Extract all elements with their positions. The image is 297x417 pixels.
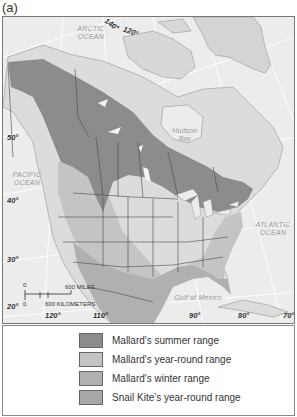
latitude-label: 30° (7, 255, 18, 264)
atlantic-ocean-label: ATLANTICOCEAN (253, 221, 293, 237)
winter-range-swatch (79, 371, 103, 386)
scale-miles-label: 600 MILES (65, 284, 95, 290)
arctic-ocean-label: ARCTICOCEAN (71, 25, 111, 41)
year-round-range-swatch (79, 352, 103, 367)
summer-range-swatch (79, 333, 103, 348)
longitude-label: 90° (189, 311, 200, 320)
scale-km-label: 600 KILOMETERS (45, 301, 95, 307)
snail-kite-range-swatch (79, 390, 103, 405)
pacific-ocean-label: PACIFICOCEAN (7, 171, 47, 187)
legend-label: Snail Kite's year-round range (112, 392, 241, 403)
legend-label: Mallard's winter range (112, 373, 210, 384)
legend-item-snail-kite: Snail Kite's year-round range (79, 388, 241, 406)
latitude-label: 20° (7, 302, 18, 311)
longitude-label: 80° (238, 311, 249, 320)
legend-label: Mallard's summer range (112, 335, 219, 346)
legend-label: Mallard's year-round range (112, 354, 231, 365)
longitude-label: 110° (93, 311, 108, 320)
hudson-bay-label: HudsonBay (171, 127, 199, 143)
map-legend: Mallard's summer range Mallard's year-ro… (2, 325, 295, 416)
range-map: ARCTICOCEAN HudsonBay PACIFICOCEAN ATLAN… (2, 16, 295, 324)
latitude-label: 40° (7, 196, 18, 205)
longitude-label: 120° (45, 311, 61, 320)
latitude-label: 50° (7, 133, 18, 142)
scale-zero-miles: 0 (23, 282, 26, 288)
scale-zero-km: 0 (23, 301, 26, 307)
panel-label: (a) (2, 0, 18, 15)
legend-item-year-round: Mallard's year-round range (79, 350, 231, 368)
gulf-of-mexico-label: Gulf of Mexico (173, 294, 223, 302)
legend-item-winter: Mallard's winter range (79, 369, 210, 387)
longitude-label: 70° (283, 311, 294, 320)
legend-item-summer: Mallard's summer range (79, 331, 219, 349)
